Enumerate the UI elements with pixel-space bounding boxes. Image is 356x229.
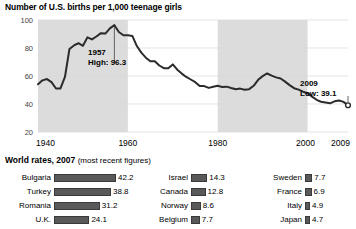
world-rate-bar — [54, 202, 100, 210]
world-rate-value: 8.6 — [201, 201, 214, 210]
annotation-high-year: 1957 — [88, 48, 126, 58]
world-rate-value: 7.7 — [200, 215, 213, 224]
world-rate-country: Israel — [146, 173, 191, 182]
world-rate-country: Sweden — [260, 173, 305, 182]
world-rate-value: 24.1 — [89, 215, 107, 224]
y-axis-label-20: 20 — [25, 128, 33, 137]
world-rate-country: Italy — [260, 201, 305, 210]
world-rate-bar — [191, 202, 201, 210]
annotation-low-value: Low: 39.1 — [300, 89, 336, 99]
world-rates-heading: World rates, 2007 (most recent figures) — [5, 155, 151, 165]
world-rate-row: U.K.24.1 — [4, 213, 144, 226]
world-rate-value: 4.7 — [310, 215, 323, 224]
world-rate-bar — [191, 174, 207, 182]
world-rates-table: Bulgaria42.2Turkey38.8Romania31.2U.K.24.… — [0, 171, 356, 227]
x-axis-label-2000: 2000 — [296, 138, 315, 148]
world-rates-column-1: Bulgaria42.2Turkey38.8Romania31.2U.K.24.… — [4, 171, 144, 227]
world-rate-country: Japan — [260, 215, 305, 224]
infographic-root: Number of U.S. births per 1,000 teenage … — [0, 0, 356, 229]
world-rates-heading-main: World rates, 2007 — [5, 155, 75, 165]
world-rate-value: 12.8 — [206, 187, 224, 196]
world-rate-country: Canada — [146, 187, 191, 196]
world-rate-country: Belgium — [146, 215, 191, 224]
world-rate-row: Belgium7.7 — [146, 213, 258, 226]
annotation-low: 2009 Low: 39.1 — [300, 79, 336, 98]
y-axis-label-60: 60 — [25, 72, 33, 81]
world-rate-row: Sweden7.7 — [260, 171, 354, 184]
y-axis-label-80: 80 — [25, 44, 33, 53]
world-rate-bar — [305, 174, 312, 182]
world-rate-row: Bulgaria42.2 — [4, 171, 144, 184]
world-rate-value: 42.2 — [116, 173, 134, 182]
world-rate-value: 38.8 — [111, 187, 129, 196]
world-rate-country: France — [260, 187, 305, 196]
world-rate-row: Romania31.2 — [4, 199, 144, 212]
world-rates-column-3: Sweden7.7France6.9Italy4.9Japan4.7 — [260, 171, 354, 227]
world-rate-bar — [54, 216, 89, 224]
world-rate-country: Romania — [4, 201, 54, 210]
x-axis-label-2009: 2009 — [331, 138, 350, 148]
world-rate-row: Norway8.6 — [146, 199, 258, 212]
world-rate-value: 31.2 — [100, 201, 118, 210]
world-rate-row: Japan4.7 — [260, 213, 354, 226]
world-rates-heading-note: (most recent figures) — [78, 156, 151, 165]
world-rate-bar — [191, 216, 200, 224]
world-rate-value: 4.9 — [310, 201, 323, 210]
world-rate-row: Turkey38.8 — [4, 185, 144, 198]
world-rate-country: Turkey — [4, 187, 54, 196]
world-rate-row: Canada12.8 — [146, 185, 258, 198]
world-rate-row: Italy4.9 — [260, 199, 354, 212]
world-rate-value: 7.7 — [312, 173, 325, 182]
world-rate-country: Bulgaria — [4, 173, 54, 182]
world-rate-country: U.K. — [4, 215, 54, 224]
x-axis-label-1940: 1940 — [36, 138, 55, 148]
world-rate-bar — [191, 188, 206, 196]
world-rate-country: Norway — [146, 201, 191, 210]
y-axis-label-40: 40 — [25, 100, 33, 109]
world-rates-column-2: Israel14.3Canada12.8Norway8.6Belgium7.7 — [146, 171, 258, 227]
x-axis-label-1960: 1960 — [118, 138, 137, 148]
world-rate-bar — [54, 188, 111, 196]
annotation-high: 1957 High: 96.3 — [88, 48, 126, 67]
y-axis-label-100: 100 — [20, 16, 33, 25]
world-rate-row: France6.9 — [260, 185, 354, 198]
page-title: Number of U.S. births per 1,000 teenage … — [5, 2, 182, 12]
x-axis-label-1980: 1980 — [208, 138, 227, 148]
data-point-marker-2009 — [346, 103, 351, 108]
annotation-high-value: High: 96.3 — [88, 58, 126, 68]
annotation-low-year: 2009 — [300, 79, 336, 89]
world-rate-row: Israel14.3 — [146, 171, 258, 184]
world-rate-value: 14.3 — [207, 173, 225, 182]
world-rate-value: 6.9 — [312, 187, 325, 196]
world-rate-bar — [54, 174, 116, 182]
